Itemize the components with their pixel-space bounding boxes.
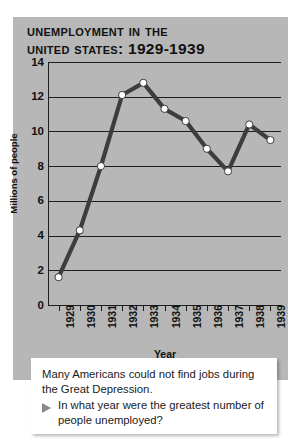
data-series bbox=[48, 62, 281, 306]
data-point-marker bbox=[224, 168, 231, 175]
data-point-marker bbox=[203, 145, 210, 152]
y-axis-tick-label: 0 bbox=[22, 300, 44, 311]
y-axis-title: Millions of people bbox=[8, 124, 19, 224]
caption-question-row: In what year were the greatest number of… bbox=[42, 398, 267, 427]
caption-statement: Many Americans could not find jobs durin… bbox=[42, 367, 267, 396]
y-axis-tick-label: 14 bbox=[22, 57, 44, 68]
chart-title: Unemployment in the United States: 1929-… bbox=[27, 22, 289, 57]
data-point-marker bbox=[267, 137, 274, 144]
y-axis-tick-label: 2 bbox=[22, 265, 44, 276]
caption-question: In what year were the greatest number of… bbox=[58, 398, 267, 427]
triangle-right-icon bbox=[42, 403, 51, 413]
x-axis-tick-label: 1931 bbox=[106, 305, 118, 345]
x-axis-tick-label: 1936 bbox=[212, 305, 224, 345]
x-axis-tick-label: 1938 bbox=[254, 305, 266, 345]
x-axis-tick-label: 1930 bbox=[85, 305, 97, 345]
x-axis-tick-label: 1934 bbox=[170, 305, 182, 345]
data-point-marker bbox=[140, 79, 147, 86]
caption-box: Many Americans could not find jobs durin… bbox=[31, 358, 277, 434]
x-axis-tick-label: 1929 bbox=[64, 305, 76, 345]
data-point-marker bbox=[161, 105, 168, 112]
chart-title-line-2: United States: 1929-1939 bbox=[27, 40, 289, 58]
data-point-marker bbox=[76, 227, 83, 234]
data-point-marker bbox=[55, 274, 62, 281]
y-axis-tick-label: 8 bbox=[22, 161, 44, 172]
data-point-marker bbox=[182, 117, 189, 124]
data-point-marker bbox=[119, 91, 126, 98]
chart-title-line-1: Unemployment in the bbox=[27, 22, 289, 40]
x-axis-tick-label: 1935 bbox=[191, 305, 203, 345]
x-axis-tick-label: 1932 bbox=[127, 305, 139, 345]
y-axis-tick-label: 12 bbox=[22, 91, 44, 102]
data-point-marker bbox=[246, 121, 253, 128]
x-axis-tick-label: 1933 bbox=[148, 305, 160, 345]
data-point-marker bbox=[97, 163, 104, 170]
y-axis-tick-label: 6 bbox=[22, 195, 44, 206]
x-axis-tick-label: 1937 bbox=[233, 305, 245, 345]
x-axis-tick-label: 1939 bbox=[275, 305, 287, 345]
y-axis-tick-label: 10 bbox=[22, 126, 44, 137]
y-axis-tick-label: 4 bbox=[22, 230, 44, 241]
